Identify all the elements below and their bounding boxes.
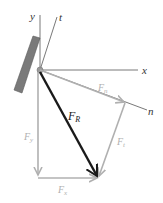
t-axis [40,17,57,70]
fy-label: Fy [23,131,34,144]
x-axis-label: x [141,64,147,76]
support-plate [14,36,40,93]
n-axis-label: n [148,105,154,117]
fr-vector [40,72,97,176]
ft-label: Ft [116,136,126,149]
t-axis-label: t [59,11,63,23]
fx-label: Fx [57,184,68,197]
force-diagram: y t x n FR Fn Ft Fy Fx [0,0,163,203]
y-axis-label: y [29,10,35,22]
fr-label: FR [67,109,80,124]
